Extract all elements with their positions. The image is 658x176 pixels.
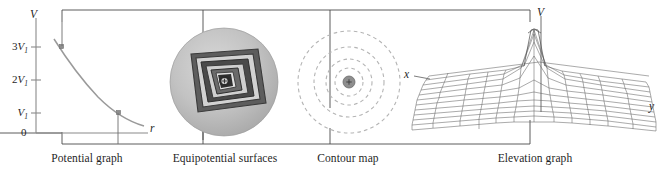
equipotential-panel (170, 28, 278, 136)
potential-x-axis-label: r (150, 122, 154, 134)
potential-tick-3v1: 3V1 (0, 40, 28, 55)
elevation-mesh (412, 30, 656, 131)
potential-graph-panel (31, 18, 148, 144)
caption-potential-graph: Potential graph (12, 152, 162, 164)
tick-sub-3: 1 (24, 46, 28, 55)
elevation-x-axis-label: x (404, 68, 409, 80)
figure-svg (0, 0, 658, 176)
curve-marker-upper (60, 45, 64, 49)
tick-sub-2: 1 (24, 79, 28, 88)
caption-elevation-graph: Elevation graph (470, 152, 600, 164)
potential-axes (36, 18, 148, 133)
figure-container: V r 0 3V1 2V1 V1 V x y Potential graph E… (0, 0, 658, 176)
elevation-v-axis-label: V (537, 6, 544, 18)
elevation-graph-panel (412, 16, 656, 131)
tick-sub-1: 1 (24, 112, 28, 121)
curve-marker-lower (117, 111, 121, 115)
potential-tick-v1: V1 (0, 106, 28, 121)
caption-equipotential-surfaces: Equipotential surfaces (143, 152, 307, 164)
potential-y-axis-label: V (30, 8, 37, 20)
top-bracket (62, 10, 530, 140)
caption-contour-map: Contour map (288, 152, 408, 164)
potential-tick-2v1: 2V1 (0, 73, 28, 88)
potential-curve (54, 39, 144, 126)
elevation-y-axis-label: y (649, 100, 654, 112)
potential-origin-label: 0 (21, 126, 27, 138)
